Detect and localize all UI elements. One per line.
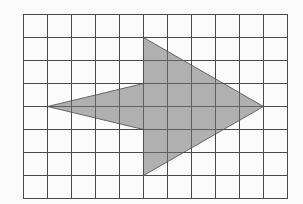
grid-diagram bbox=[0, 0, 303, 204]
grid-lines-overlay bbox=[23, 14, 288, 199]
